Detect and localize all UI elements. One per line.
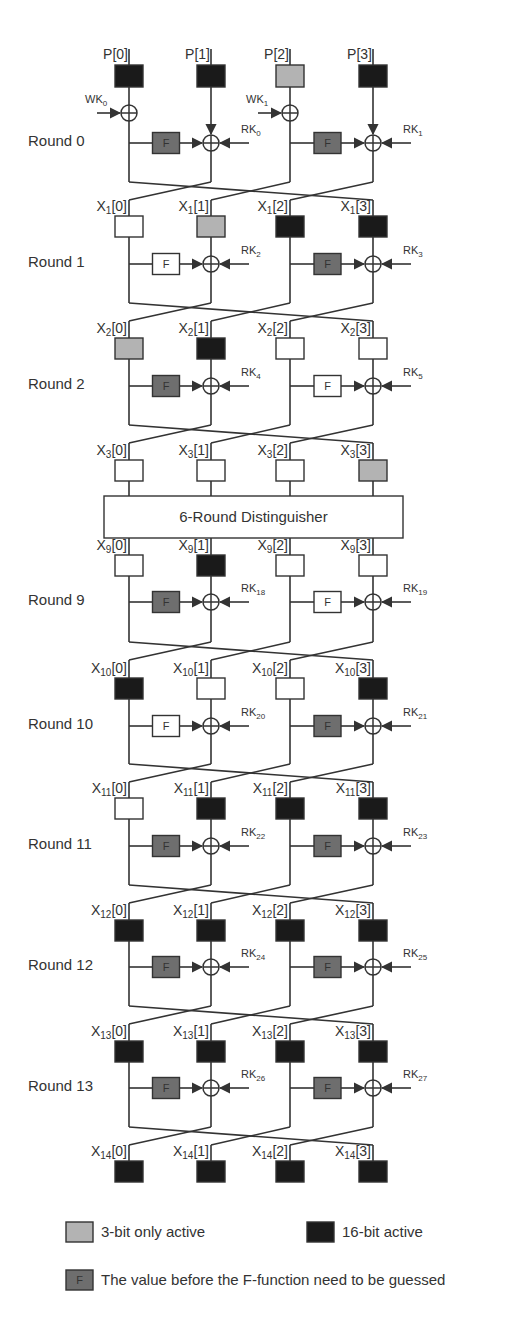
state-x13-cell-2 bbox=[276, 1041, 304, 1062]
state-x10-label-2: X10[2] bbox=[252, 660, 288, 678]
state-x13-cell-3 bbox=[359, 1041, 387, 1062]
round-3-rk-label-1: RK19 bbox=[403, 582, 428, 597]
round-4-label: Round 10 bbox=[28, 715, 93, 732]
state-x10-cell-1 bbox=[197, 678, 225, 699]
state-x3-cell-2 bbox=[276, 460, 304, 481]
round-7-f-text-0: F bbox=[163, 1082, 170, 1094]
plaintext-label-3: P[3] bbox=[347, 46, 372, 62]
round-2-rk-label-1: RK5 bbox=[403, 366, 423, 381]
round-1-label: Round 1 bbox=[28, 253, 85, 270]
state-x11-cell-0 bbox=[115, 798, 143, 819]
round-5-f-text-1: F bbox=[324, 840, 331, 852]
round-7-xor-icon-1 bbox=[365, 1080, 381, 1096]
round-5-label: Round 11 bbox=[28, 835, 92, 852]
round-3-f-text-1: F bbox=[324, 596, 331, 608]
round-4-xor-icon-1 bbox=[365, 718, 381, 734]
state-x10-cell-2 bbox=[276, 678, 304, 699]
state-x10-label-1: X10[1] bbox=[173, 660, 209, 678]
legend-text-0: 3-bit only active bbox=[101, 1223, 205, 1240]
state-x14-label-3: X14[3] bbox=[335, 1143, 371, 1161]
state-x14-label-2: X14[2] bbox=[252, 1143, 288, 1161]
state-x12-cell-2 bbox=[276, 920, 304, 941]
round-1-rk-label-1: RK3 bbox=[403, 244, 423, 259]
legend-f-text: F bbox=[76, 1274, 83, 1286]
state-x9-cell-1 bbox=[197, 555, 225, 576]
plaintext-label-2: P[2] bbox=[264, 46, 289, 62]
round-5-perm-0-3 bbox=[129, 885, 373, 903]
state-x14-cell-3 bbox=[359, 1161, 387, 1182]
state-x1-cell-2 bbox=[276, 216, 304, 237]
state-x13-label-0: X13[0] bbox=[91, 1023, 127, 1041]
state-x11-label-2: X11[2] bbox=[253, 780, 288, 798]
state-x11-label-3: X11[3] bbox=[336, 780, 371, 798]
round-4-f-text-1: F bbox=[324, 720, 331, 732]
round-6-rk-label-1: RK25 bbox=[403, 947, 428, 962]
round-7-rk-label-1: RK27 bbox=[403, 1068, 428, 1083]
state-x2-cell-1 bbox=[197, 338, 225, 359]
round-3-xor-icon-1 bbox=[365, 594, 381, 610]
plaintext-cell-1 bbox=[197, 65, 225, 87]
round-1-f-text-0: F bbox=[163, 258, 170, 270]
state-x1-label-0: X1[0] bbox=[97, 198, 127, 216]
state-x3-cell-1 bbox=[197, 460, 225, 481]
state-x1-label-2: X1[2] bbox=[258, 198, 288, 216]
round-1-rk-label-0: RK2 bbox=[241, 244, 261, 259]
round-0-label: Round 0 bbox=[28, 132, 85, 149]
state-x13-cell-1 bbox=[197, 1041, 225, 1062]
round-1-f-text-1: F bbox=[324, 258, 331, 270]
legend-swatch-1 bbox=[307, 1222, 334, 1242]
state-x12-cell-0 bbox=[115, 920, 143, 941]
round-1-xor-icon-0 bbox=[203, 256, 219, 272]
round-3-rk-label-0: RK18 bbox=[241, 582, 266, 597]
state-x1-cell-1 bbox=[197, 216, 225, 237]
plaintext-cell-0 bbox=[115, 65, 143, 87]
round-5-rk-label-0: RK22 bbox=[241, 826, 266, 841]
state-x12-label-1: X12[1] bbox=[173, 902, 209, 920]
round-5-rk-label-1: RK23 bbox=[403, 826, 428, 841]
round-4-f-text-0: F bbox=[163, 720, 170, 732]
state-x9-label-0: X9[0] bbox=[97, 537, 127, 555]
state-x2-label-3: X2[3] bbox=[341, 320, 371, 338]
state-x2-cell-3 bbox=[359, 338, 387, 359]
state-x2-label-2: X2[2] bbox=[258, 320, 288, 338]
round-3-f-text-0: F bbox=[163, 596, 170, 608]
state-x1-cell-0 bbox=[115, 216, 143, 237]
state-x14-cell-1 bbox=[197, 1161, 225, 1182]
whitening-label-0: WK0 bbox=[85, 93, 108, 108]
plaintext-cell-3 bbox=[359, 65, 387, 87]
round-0-f-text-0: F bbox=[163, 137, 170, 149]
legend-text-1: 16-bit active bbox=[342, 1223, 423, 1240]
state-x11-label-1: X11[1] bbox=[174, 780, 209, 798]
state-x12-label-3: X12[3] bbox=[335, 902, 371, 920]
state-x3-label-1: X3[1] bbox=[179, 442, 209, 460]
state-x9-cell-3 bbox=[359, 555, 387, 576]
state-x13-label-1: X13[1] bbox=[173, 1023, 209, 1041]
state-x9-label-2: X9[2] bbox=[258, 537, 288, 555]
state-x9-cell-2 bbox=[276, 555, 304, 576]
state-x3-label-3: X3[3] bbox=[341, 442, 371, 460]
state-x11-cell-2 bbox=[276, 798, 304, 819]
whitening-xor-icon-0 bbox=[121, 105, 137, 121]
round-6-label: Round 12 bbox=[28, 956, 93, 973]
round-2-perm-0-3 bbox=[129, 425, 373, 443]
round-6-rk-label-0: RK24 bbox=[241, 947, 266, 962]
state-x3-cell-0 bbox=[115, 460, 143, 481]
round-5-f-text-0: F bbox=[163, 840, 170, 852]
state-x13-label-3: X13[3] bbox=[335, 1023, 371, 1041]
state-x12-cell-3 bbox=[359, 920, 387, 941]
round-0-xor-icon-0 bbox=[203, 135, 219, 151]
round-6-f-text-0: F bbox=[163, 961, 170, 973]
round-0-xor-icon-1 bbox=[365, 135, 381, 151]
state-x11-cell-3 bbox=[359, 798, 387, 819]
round-2-label: Round 2 bbox=[28, 375, 85, 392]
state-x11-label-0: X11[0] bbox=[92, 780, 127, 798]
state-x2-label-1: X2[1] bbox=[179, 320, 209, 338]
round-0-rk-label-1: RK1 bbox=[403, 123, 423, 138]
plaintext-cell-2 bbox=[276, 65, 304, 87]
round-5-xor-icon-0 bbox=[203, 838, 219, 854]
round-3-perm-0-3 bbox=[129, 642, 373, 660]
round-4-rk-label-1: RK21 bbox=[403, 706, 428, 721]
whitening-label-1: WK1 bbox=[246, 93, 269, 108]
state-x2-cell-2 bbox=[276, 338, 304, 359]
round-7-rk-label-0: RK26 bbox=[241, 1068, 266, 1083]
